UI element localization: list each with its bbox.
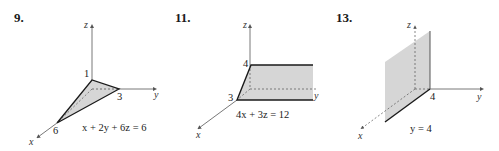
x-intercept: 3 [228, 92, 233, 103]
x-axis [199, 100, 237, 128]
figures-canvas: z y x 1 3 6 x + 2y + 6z = 6 z y x 4 3 4x… [0, 0, 499, 151]
figure-11-plot: z y x 4 3 4x + 3z = 12 [195, 19, 319, 140]
equation: x + 2y + 6z = 6 [82, 122, 146, 133]
y-axis-label: y [313, 90, 319, 101]
y-axis-label: y [153, 89, 159, 100]
z-intercept: 4 [243, 58, 249, 69]
x-axis-label: x [28, 136, 34, 147]
equation: 4x + 3z = 12 [236, 109, 289, 120]
figure-9-plot: z y x 1 3 6 x + 2y + 6z = 6 [28, 19, 159, 147]
z-intercept: 1 [84, 68, 89, 79]
equation: y = 4 [410, 123, 432, 134]
figure-13-plot: z y x 4 y = 4 [357, 19, 482, 141]
plane-region [385, 31, 430, 122]
z-axis-label: z [242, 19, 247, 30]
x-axis-label: x [195, 129, 201, 140]
x-intercept: 6 [53, 125, 58, 136]
y-axis-label: y [476, 91, 482, 102]
y-intercept: 4 [430, 91, 436, 102]
x-axis-label: x [357, 130, 363, 141]
y-intercept: 3 [117, 91, 122, 102]
z-axis-label: z [83, 19, 88, 30]
z-axis-label: z [406, 19, 411, 30]
